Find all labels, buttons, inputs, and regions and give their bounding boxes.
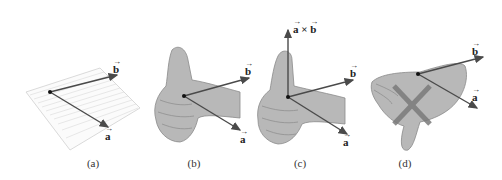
panel-c-label-a: →a	[343, 137, 349, 148]
panel-b-label-a: →a	[240, 134, 246, 145]
panel-c-label-cross: →a × →b	[293, 24, 316, 35]
panel-b-hand	[155, 47, 249, 142]
panel-c-label-b: →b	[350, 68, 356, 79]
caption-a: (a)	[87, 157, 99, 169]
panel-c-hand	[258, 30, 353, 144]
panel-d-label-b: →b	[472, 46, 478, 57]
right-hand-rule-diagram	[0, 0, 502, 180]
caption-d: (d)	[399, 157, 412, 169]
caption-c: (c)	[294, 157, 306, 169]
panel-d-label-a: →a	[472, 92, 478, 103]
panel-d-hand	[371, 57, 483, 150]
panel-a-label-a: →a	[105, 131, 111, 142]
panel-a-label-b: →b	[113, 64, 119, 75]
caption-b: (b)	[188, 157, 201, 169]
panel-b-label-b: →b	[245, 66, 251, 77]
panel-a-plane	[26, 68, 140, 150]
